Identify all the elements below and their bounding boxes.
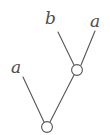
tree-diagram: a b a (0, 0, 110, 135)
edge-root-internal (50, 75, 74, 122)
leaf-label-right-a: a (90, 13, 100, 30)
node-internal (72, 65, 83, 76)
leaf-label-b: b (45, 10, 56, 27)
edge-internal-leaf-right-a (81, 31, 95, 65)
edge-group (23, 31, 95, 122)
edge-internal-leaf-b (58, 32, 74, 65)
edge-root-leaf-left-a (23, 77, 44, 122)
leaf-label-left-a: a (11, 59, 21, 76)
node-root (42, 122, 53, 133)
